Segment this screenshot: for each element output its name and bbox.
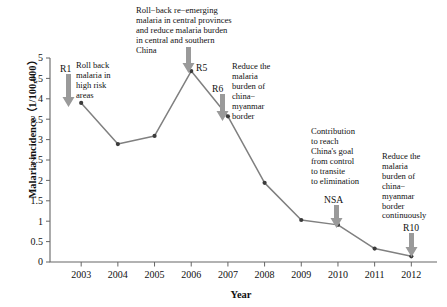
data-point-marker: 2011: 0.33 bbox=[373, 246, 377, 250]
x-tick-label: 2005 bbox=[145, 269, 165, 280]
y-tick-label: 1 bbox=[38, 216, 43, 227]
arrow-icon-r6 bbox=[216, 94, 229, 122]
annotation-text-nsa: Contribution to reach China's goal from … bbox=[311, 127, 381, 186]
x-tick-label: 2004 bbox=[108, 269, 128, 280]
x-tick-label: 2008 bbox=[255, 269, 275, 280]
y-tick-label: 0 bbox=[38, 256, 43, 267]
x-tick-label: 2012 bbox=[401, 269, 421, 280]
data-point-marker: 2008: 1.94 bbox=[262, 181, 266, 185]
y-tick-label: 0.5 bbox=[31, 236, 44, 247]
annotation-text-r10: Reduce the malaria burden of china− myan… bbox=[382, 152, 444, 221]
x-tick-label: 2006 bbox=[181, 269, 201, 280]
arrow-icon-nsa bbox=[330, 205, 343, 229]
arrow-icon-r1 bbox=[62, 74, 75, 108]
x-tick-label: 2010 bbox=[328, 269, 348, 280]
arrow-icon-r5 bbox=[182, 47, 195, 74]
x-tick-label: 2009 bbox=[291, 269, 311, 280]
x-tick-label: 2011 bbox=[365, 269, 385, 280]
data-point-marker: 2009: 1.03 bbox=[299, 218, 303, 222]
annotation-tag-r5: R5 bbox=[196, 62, 207, 73]
malaria-incidence-figure: 00.511.522.533.544.552003200420052006200… bbox=[0, 0, 447, 307]
arrow-icon-r10 bbox=[405, 233, 418, 258]
x-axis-title: Year bbox=[231, 289, 252, 300]
x-tick-label: 2003 bbox=[71, 269, 91, 280]
annotation-tag-r10: R10 bbox=[403, 222, 419, 233]
data-point-marker: 2004: 2.89 bbox=[116, 142, 120, 146]
data-point-marker: 2005: 3.09 bbox=[152, 134, 156, 138]
annotation-tag-nsa: NSA bbox=[324, 194, 343, 205]
data-point-marker: 2003: 3.9 bbox=[79, 101, 83, 105]
annotation-text-r6: Reduce the malaria burden of china− myan… bbox=[232, 62, 289, 121]
y-axis-title-wrap: Malaria incidence（1/100,000） bbox=[22, 47, 40, 207]
y-axis-title: Malaria incidence（1/100,000） bbox=[27, 55, 38, 198]
annotation-text-r1: Roll back malaria in high risk areas bbox=[76, 61, 134, 101]
annotation-tag-r6: R6 bbox=[212, 83, 223, 94]
annotation-tag-r1: R1 bbox=[60, 63, 71, 74]
x-tick-label: 2007 bbox=[218, 269, 238, 280]
